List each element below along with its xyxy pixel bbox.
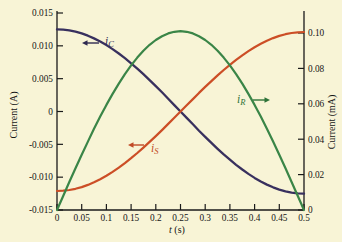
left-axis-tick-label: 0.015 [32,8,53,18]
x-axis-tick-label: 0.4 [249,213,261,223]
x-axis-tick-label: 0.45 [271,213,288,223]
x-axis-title: t (s) [169,224,185,235]
x-axis-tick-label: 0 [55,213,60,223]
circuit-currents-figure: 0.0150.0100.0050-0.005-0.010-0.0150.100.… [0,0,342,242]
x-axis-variable: t [169,224,172,235]
left-axis-tick-label: -0.010 [29,172,53,182]
left-arrow-head-iC [82,40,88,45]
left-axis-title: Current (A) [8,92,19,139]
x-axis-tick-label: 0.05 [74,213,91,223]
right-axis-title: Current (mA) [326,95,337,150]
left-axis-tick-label: -0.015 [29,205,53,215]
x-axis-tick-label: 0.5 [298,213,310,223]
x-axis-tick-label: 0.15 [123,213,140,223]
curve-label-iR: iR [237,93,246,107]
right-axis-tick-label: 0.04 [308,135,325,145]
x-axis-tick-label: 0.35 [222,213,239,223]
left-axis-tick-label: 0.005 [32,74,53,84]
right-axis-tick-label: 0.02 [308,170,325,180]
left-axis-tick-label: 0.010 [32,41,53,51]
left-axis-tick-label: -0.005 [29,140,53,150]
x-axis-tick-label: 0.25 [172,213,189,223]
curve-iS [57,32,304,191]
left-arrow-head-iS [128,142,134,147]
chart-canvas: 0.0150.0100.0050-0.005-0.010-0.0150.100.… [0,0,342,242]
curve-label-iS: iS [151,142,159,156]
right-axis-tick-label: 0.06 [308,99,325,109]
left-axis-tick-label: 0 [48,107,53,117]
right-arrow-head-iR [265,97,271,102]
x-axis-tick-label: 0.1 [101,213,113,223]
x-axis-unit: (s) [174,224,185,235]
x-axis-tick-label: 0.3 [199,213,211,223]
curve-label-iC: iC [105,35,114,49]
right-axis-tick-label: 0.10 [308,28,325,38]
right-axis-tick-label: 0.08 [308,64,325,74]
x-axis-tick-label: 0.2 [150,213,162,223]
